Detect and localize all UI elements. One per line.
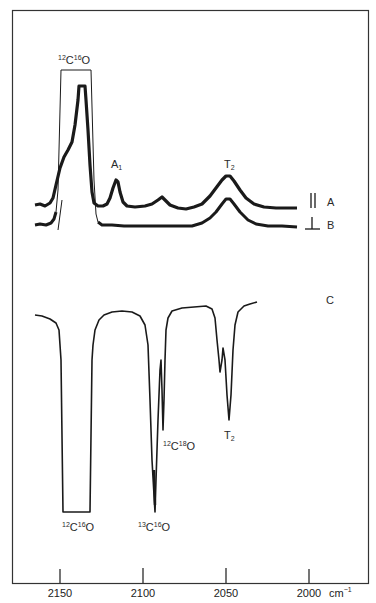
label-12c16o-bottom: 12C16O xyxy=(62,521,95,533)
label-12c18o: 12C18O xyxy=(163,440,196,452)
label-13c16o: 13C16O xyxy=(138,521,171,533)
plot-frame xyxy=(13,11,369,584)
x-axis-unit: cm−1 xyxy=(329,586,352,599)
label-t2-top: T2 xyxy=(224,158,235,171)
tick-label-2100: 2100 xyxy=(131,587,155,599)
trace-b xyxy=(35,212,56,225)
label-t2-bottom: T2 xyxy=(224,429,235,442)
label-trace-c: C xyxy=(326,294,334,306)
parallel-polarization-icon xyxy=(311,193,315,208)
label-trace-a: A xyxy=(327,196,335,208)
label-trace-b: B xyxy=(327,219,334,231)
tick-label-2050: 2050 xyxy=(214,587,238,599)
trace-b-right xyxy=(98,199,297,227)
x-axis-ticks xyxy=(60,568,309,583)
label-a1: A1 xyxy=(111,158,122,171)
trace-a-band-edge xyxy=(58,200,62,230)
tick-label-2150: 2150 xyxy=(48,587,72,599)
ir-spectrum-figure: 12C16O A1 T2 A B C 12C18O T2 12C16O 13C1… xyxy=(0,0,376,603)
trace-c-13c-shading xyxy=(154,470,155,505)
trace-a xyxy=(35,86,297,209)
label-12c16o-top: 12C16O xyxy=(58,54,91,66)
trace-c xyxy=(35,302,257,512)
perpendicular-polarization-icon xyxy=(305,217,320,229)
tick-label-2000: 2000 xyxy=(297,587,321,599)
